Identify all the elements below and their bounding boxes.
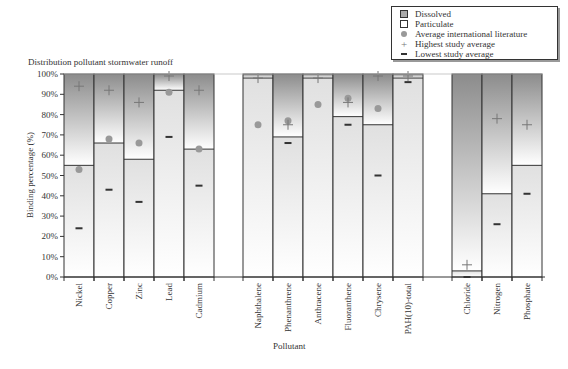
lowest-marker-icon <box>285 142 292 144</box>
bar-cadmium <box>184 74 214 277</box>
bar-lead <box>154 71 184 277</box>
x-axis-label: Pollutant <box>273 341 306 351</box>
dissolved-segment <box>512 74 542 165</box>
bar-zinc <box>124 74 154 277</box>
particulate-segment <box>512 165 542 277</box>
y-tick-label: 80% <box>42 110 59 120</box>
bar-pah-10-total <box>393 71 423 277</box>
plus-marker-icon: + <box>401 39 407 49</box>
avg-marker-icon <box>375 105 382 112</box>
dissolved-segment <box>482 74 512 194</box>
legend-item-average: Average international literature <box>392 29 557 39</box>
lowest-marker-icon <box>196 185 203 187</box>
dissolved-swatch-icon <box>400 10 408 18</box>
y-tick-label: 10% <box>42 252 59 262</box>
avg-marker-icon <box>315 101 322 108</box>
particulate-segment <box>333 117 363 277</box>
bars-layer <box>64 71 542 278</box>
particulate-swatch-icon <box>400 20 408 28</box>
dissolved-segment <box>363 74 393 125</box>
dissolved-segment <box>452 74 482 271</box>
x-tick-label: Lead <box>164 283 174 301</box>
y-tick-label: 90% <box>42 89 59 99</box>
y-tick-label: 0% <box>46 272 59 282</box>
avg-marker-icon <box>166 89 173 96</box>
bar-naphthalene <box>243 73 273 277</box>
x-tick-label: Fluoranthene <box>343 283 353 331</box>
chart-title: Distribution pollutant stormwater runoff <box>28 57 173 67</box>
x-tick-label: Chloride <box>462 283 472 315</box>
x-tick-label: Naphthalene <box>253 283 263 328</box>
bar-copper <box>94 74 124 277</box>
lowest-marker-icon <box>494 223 501 225</box>
legend-item-particulate: Particulate <box>392 19 557 29</box>
particulate-segment <box>363 125 393 277</box>
particulate-segment <box>94 143 124 277</box>
x-tick-label: Cadmium <box>194 283 204 319</box>
x-tick-label: Anthracene <box>313 283 323 324</box>
lowest-marker-icon <box>106 189 113 191</box>
bar-anthracene <box>303 73 333 277</box>
legend-item-lowest: Lowest study average <box>392 49 557 59</box>
particulate-segment <box>64 165 94 277</box>
y-tick-label: 70% <box>42 130 59 140</box>
particulate-segment <box>243 78 273 277</box>
particulate-segment <box>482 194 512 277</box>
legend: Dissolved Particulate Average internatio… <box>391 6 558 60</box>
legend-item-highest: +Highest study average <box>392 39 557 49</box>
particulate-segment <box>393 78 423 277</box>
avg-marker-icon <box>136 140 143 147</box>
lowest-marker-icon <box>76 227 83 229</box>
lowest-marker-icon <box>524 193 531 195</box>
x-tick-label: Phosphate <box>522 283 532 320</box>
lowest-marker-icon <box>136 201 143 203</box>
x-tick-label: Chrysene <box>373 283 383 317</box>
avg-marker-icon <box>76 166 83 173</box>
avg-marker-icon <box>106 135 113 142</box>
bar-chloride <box>452 74 482 278</box>
lowest-marker-icon <box>375 175 382 177</box>
bar-phenanthrene <box>273 74 303 277</box>
minus-marker-icon <box>401 53 407 55</box>
y-tick-label: 50% <box>42 171 59 181</box>
y-tick-label: 60% <box>42 150 59 160</box>
particulate-segment <box>154 90 184 277</box>
lowest-marker-icon <box>166 136 173 138</box>
x-tick-label: Nitrogen <box>492 283 502 315</box>
particulate-segment <box>124 159 154 277</box>
bar-phosphate <box>512 74 542 277</box>
y-tick-label: 30% <box>42 211 59 221</box>
y-tick-label: 40% <box>42 191 59 201</box>
x-tick-label: Phenanthrene <box>283 283 293 332</box>
bar-fluoranthene <box>333 74 363 277</box>
bar-nitrogen <box>482 74 512 277</box>
x-tick-label: Nickel <box>74 283 84 307</box>
circle-marker-icon <box>401 31 407 37</box>
avg-marker-icon <box>255 121 262 128</box>
particulate-segment <box>273 137 303 277</box>
lowest-marker-icon <box>345 124 352 126</box>
legend-item-dissolved: Dissolved <box>392 9 557 19</box>
bar-nickel <box>64 74 94 277</box>
y-tick-label: 100% <box>37 69 59 79</box>
particulate-segment <box>184 149 214 277</box>
x-tick-label: Copper <box>104 283 114 310</box>
y-axis-label: Binding percentage (%) <box>25 115 35 235</box>
x-tick-label: Zinc <box>134 283 144 300</box>
bar-chrysene <box>363 71 393 277</box>
avg-marker-icon <box>196 146 203 153</box>
dissolved-segment <box>94 74 124 143</box>
lowest-marker-icon <box>405 81 412 83</box>
y-tick-label: 20% <box>42 231 59 241</box>
x-tick-label: PAH(10)-total <box>403 283 413 335</box>
